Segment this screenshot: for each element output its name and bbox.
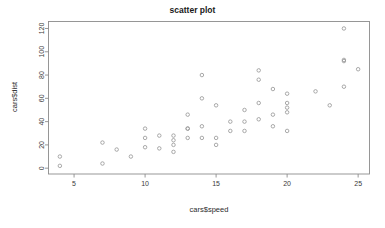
scatter-point <box>214 104 218 108</box>
scatter-point <box>342 27 346 31</box>
scatter-point <box>342 85 346 89</box>
scatter-point <box>243 108 247 112</box>
scatter-point <box>200 125 204 128</box>
scatter-point <box>143 136 147 140</box>
scatter-point <box>271 113 275 117</box>
scatter-point <box>356 67 360 71</box>
x-axis-ticks <box>74 174 358 178</box>
y-tick-label: 40 <box>38 118 45 126</box>
y-tick-label: 100 <box>38 46 45 58</box>
scatter-point <box>101 162 105 166</box>
x-tick-label: 10 <box>141 180 149 187</box>
scatter-point <box>58 155 62 159</box>
scatter-point <box>257 101 261 105</box>
y-tick-label: 20 <box>38 141 45 149</box>
scatter-point <box>129 155 133 159</box>
y-tick-label: 80 <box>38 71 45 79</box>
scatter-point <box>143 145 147 149</box>
scatter-point <box>229 129 233 133</box>
y-axis-tick-labels: 020406080100120 <box>38 23 45 171</box>
y-axis-ticks <box>45 28 49 168</box>
x-tick-label: 15 <box>212 180 220 187</box>
scatter-point <box>186 113 190 117</box>
scatter-point <box>200 97 204 101</box>
scatter-point <box>186 136 190 140</box>
x-axis-label: cars$speed <box>190 205 229 214</box>
scatter-point <box>143 127 147 131</box>
scatter-point <box>172 143 176 147</box>
x-tick-label: 25 <box>354 180 362 187</box>
chart-title: scatter plot <box>170 5 216 15</box>
scatter-point <box>271 87 275 91</box>
scatter-plot-figure: scatter plot 510152025 020406080100120 c… <box>0 0 385 228</box>
scatter-point <box>214 136 218 140</box>
scatter-point <box>285 111 289 115</box>
scatter-point <box>285 106 289 110</box>
y-axis-label: cars$dist <box>10 81 19 112</box>
scatter-point <box>200 73 204 77</box>
scatter-point <box>101 141 105 145</box>
y-tick-label: 120 <box>38 23 45 35</box>
scatter-point <box>200 136 204 140</box>
scatter-point <box>271 125 275 128</box>
scatter-point <box>285 92 289 96</box>
x-axis-tick-labels: 510152025 <box>72 180 362 187</box>
scatter-point <box>214 143 218 147</box>
x-tick-label: 20 <box>283 180 291 187</box>
plot-frame <box>49 22 370 175</box>
scatter-point <box>257 118 261 122</box>
scatter-point <box>186 127 190 131</box>
scatter-point <box>229 120 233 124</box>
scatter-point <box>158 134 162 138</box>
scatter-point <box>172 138 176 142</box>
scatter-point <box>115 148 119 152</box>
scatter-point <box>285 101 289 105</box>
scatter-point <box>58 164 62 168</box>
y-tick-label: 0 <box>38 166 45 170</box>
x-tick-label: 5 <box>72 180 76 187</box>
scatter-point <box>158 147 162 151</box>
scatter-point <box>243 129 247 133</box>
scatter-point <box>314 90 318 94</box>
scatter-point <box>172 150 176 154</box>
scatter-point <box>285 129 289 133</box>
plot-canvas: scatter plot 510152025 020406080100120 c… <box>0 0 385 228</box>
scatter-point <box>328 104 332 108</box>
scatter-point <box>243 120 247 124</box>
scatter-point <box>257 69 261 73</box>
y-tick-label: 60 <box>38 94 45 102</box>
scatter-point <box>257 78 261 82</box>
scatter-point <box>172 134 176 138</box>
scatter-points-group <box>58 27 360 168</box>
